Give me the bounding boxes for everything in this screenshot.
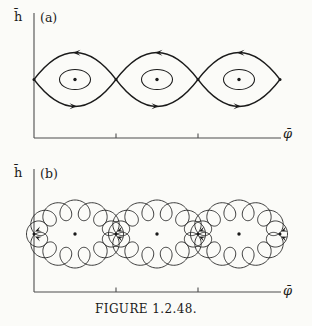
center-equilibrium-dot: [237, 232, 240, 235]
saddle-flow-arrow: [35, 237, 42, 242]
saddle-point-dot: [197, 233, 200, 236]
center-equilibrium-dot: [155, 232, 158, 235]
saddle-point-dot: [115, 233, 118, 236]
saddle-point-dot: [115, 78, 118, 81]
panel-a-plot: [0, 0, 312, 155]
separatrix-top-arc: [198, 53, 280, 80]
figure-1-2-48: h̄ (a) φ̄ h̄ (b) φ̄ FIGURE 1.2.48.: [0, 0, 312, 326]
center-equilibrium-dot: [73, 232, 76, 235]
panel-b-axes: [34, 169, 281, 292]
panel-a-separatrix-eyes: [33, 50, 282, 110]
center-equilibrium-dot: [73, 78, 76, 81]
saddle-point-dot: [33, 233, 36, 236]
panel-a-axes: [34, 13, 281, 138]
saddle-point-dot: [197, 78, 200, 81]
separatrix-top-arc: [116, 53, 198, 80]
saddle-point-dot: [279, 233, 282, 236]
separatrix-top-arc: [34, 53, 116, 80]
separatrix-bottom-arc: [34, 80, 116, 107]
separatrix-bottom-arc: [116, 80, 198, 107]
saddle-point-dot: [33, 78, 36, 81]
separatrix-bottom-arc: [198, 80, 280, 107]
saddle-flow-arrow: [35, 227, 42, 232]
panel-b-looped-orbits: [27, 200, 289, 268]
saddle-point-dot: [279, 78, 282, 81]
center-equilibrium-dot: [237, 78, 240, 81]
center-equilibrium-dot: [155, 78, 158, 81]
panel-b-plot: [0, 155, 312, 305]
figure-caption: FIGURE 1.2.48.: [0, 302, 292, 316]
